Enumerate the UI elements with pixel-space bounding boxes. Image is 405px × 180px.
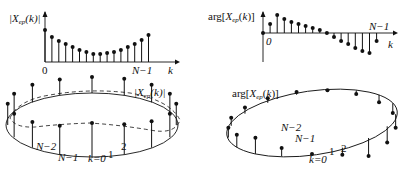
- diagram-canvas: |Xep(k)| 0 N−1 k arg[Xep(k)] 0 N−1 k |Xe…: [0, 0, 405, 180]
- stem-dot: [150, 119, 154, 123]
- phase-stem-plot: arg[Xep(k)] 0 N−1 k: [208, 10, 398, 62]
- point-label-2: 2: [341, 142, 347, 154]
- phase-stems: [261, 13, 379, 55]
- stem-dot: [385, 140, 389, 144]
- stem-dot: [261, 31, 265, 35]
- stem-dot: [105, 51, 109, 55]
- stem-dot: [168, 112, 172, 116]
- stem-dot: [112, 50, 116, 54]
- stem-dot: [50, 35, 54, 39]
- circle-label: arg[Xep(k)]: [232, 87, 279, 101]
- circle-label: |Xep(k)|: [134, 86, 166, 100]
- stem-dot: [84, 50, 88, 54]
- stem-dot: [394, 126, 398, 130]
- stem-dot: [332, 35, 336, 39]
- stem-dot: [126, 45, 130, 49]
- stem-dot: [58, 124, 62, 128]
- stem-dot: [6, 102, 10, 106]
- y-axis-arrow-icon: [261, 11, 266, 17]
- tick-label-zero: 0: [266, 35, 272, 47]
- tick-label-zero: 0: [42, 64, 48, 76]
- point-label-n-minus-2: N−2: [35, 140, 57, 152]
- magnitude-y-label: |Xep(k)|: [9, 12, 41, 26]
- stem-dot: [30, 120, 34, 124]
- stem-dot: [339, 39, 343, 43]
- stem-dot: [90, 121, 94, 125]
- stem-dot: [119, 48, 123, 52]
- magnitude-circle-plot: |Xep(k)| N−2 N−1 k=0 1 2: [6, 75, 180, 164]
- stem-dot: [311, 26, 315, 30]
- stem-dot: [91, 52, 95, 56]
- stem-dot: [353, 46, 357, 50]
- stem-dot: [226, 126, 230, 130]
- stem-dot: [289, 20, 293, 24]
- stem-dot: [147, 33, 151, 37]
- tick-label-n-minus-1: N−1: [368, 20, 389, 32]
- magnitude-stem-plot: |Xep(k)| 0 N−1 k: [9, 11, 180, 76]
- stem-dot: [325, 88, 329, 92]
- tick-label-n-minus-1: N−1: [131, 64, 152, 76]
- stem-dot: [275, 13, 279, 17]
- stem-dot: [297, 22, 301, 26]
- phase-y-label: arg[Xep(k)]: [208, 10, 255, 24]
- stem-dot: [377, 100, 381, 104]
- stem-dot: [282, 17, 286, 21]
- stem-dot: [140, 38, 144, 42]
- y-axis-arrow-icon: [43, 11, 48, 17]
- point-label-1: 1: [329, 145, 335, 157]
- stem-dot: [391, 111, 395, 115]
- stem-dot: [375, 39, 379, 43]
- x-axis-arrow-icon: [393, 31, 398, 36]
- stem-dot: [98, 52, 102, 56]
- stem-dot: [58, 77, 62, 81]
- stem-dot: [354, 92, 358, 96]
- stem-dot: [346, 42, 350, 46]
- stem-dot: [133, 42, 137, 46]
- point-label-k0: k=0: [309, 153, 327, 165]
- stem-dot: [174, 102, 178, 106]
- x-axis-arrow-icon: [175, 60, 180, 65]
- stem-dot: [43, 28, 47, 32]
- point-label-2: 2: [121, 140, 127, 152]
- stem-dot: [235, 133, 239, 137]
- stem-dot: [30, 83, 34, 87]
- stem-dot: [71, 45, 75, 49]
- x-axis-label: k: [168, 64, 174, 76]
- point-label-n-minus-1: N−1: [57, 151, 78, 163]
- stem-dot: [280, 146, 284, 150]
- point-label-k0: k=0: [88, 152, 106, 164]
- stem-dot: [12, 92, 16, 96]
- stem-dot: [122, 122, 126, 126]
- stem-dot: [253, 136, 257, 140]
- stem-dot: [304, 24, 308, 28]
- stem-dot: [325, 31, 329, 35]
- stem-dot: [229, 116, 233, 120]
- point-label-1: 1: [108, 148, 114, 160]
- stem-dot: [368, 51, 372, 55]
- stem-dot: [367, 154, 371, 158]
- phase-circle-plot: arg[Xep(k)] N−2 N−1 k=0 1 2: [222, 79, 401, 166]
- stem-dot: [243, 105, 247, 109]
- x-axis-label: k: [388, 38, 394, 50]
- magnitude-stems: [43, 28, 151, 62]
- stem-dot: [295, 90, 299, 94]
- stem-dot: [90, 75, 94, 79]
- stem-dot: [168, 92, 172, 96]
- point-label-n-minus-1: N−1: [294, 132, 315, 144]
- stem-dot: [57, 39, 61, 43]
- stem-dot: [122, 77, 126, 81]
- stem-dot: [318, 28, 322, 32]
- stem-dot: [360, 49, 364, 53]
- stem-dot: [78, 48, 82, 52]
- stem-dot: [64, 42, 68, 46]
- stem-dot: [268, 22, 272, 26]
